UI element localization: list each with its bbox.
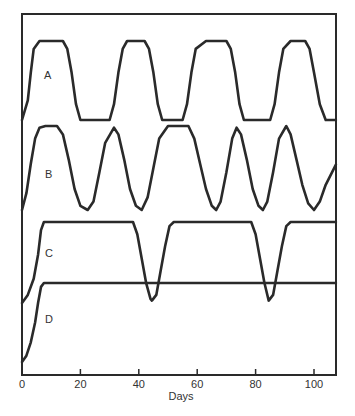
curves-group: [22, 41, 336, 362]
x-tick-label: 20: [74, 378, 86, 390]
plot-frame: [22, 14, 336, 375]
x-tick-label: 40: [133, 378, 145, 390]
curve-d: [22, 283, 336, 362]
x-tick-label: 100: [305, 378, 323, 390]
x-tick-label: 0: [19, 378, 25, 390]
curve-label-a: A: [44, 69, 52, 81]
x-tick-label: 60: [191, 378, 203, 390]
curve-label-c: C: [45, 247, 53, 259]
x-tick-label: 80: [249, 378, 261, 390]
curve-b: [22, 126, 336, 210]
curve-label-b: B: [45, 168, 52, 180]
x-axis-label: Days: [168, 390, 194, 402]
curve-label-d: D: [45, 313, 53, 325]
curve-c: [22, 222, 336, 303]
x-axis-ticks: 020406080100: [19, 369, 323, 390]
chart: 020406080100 A B C D Days: [0, 0, 355, 416]
curve-a: [22, 41, 336, 120]
